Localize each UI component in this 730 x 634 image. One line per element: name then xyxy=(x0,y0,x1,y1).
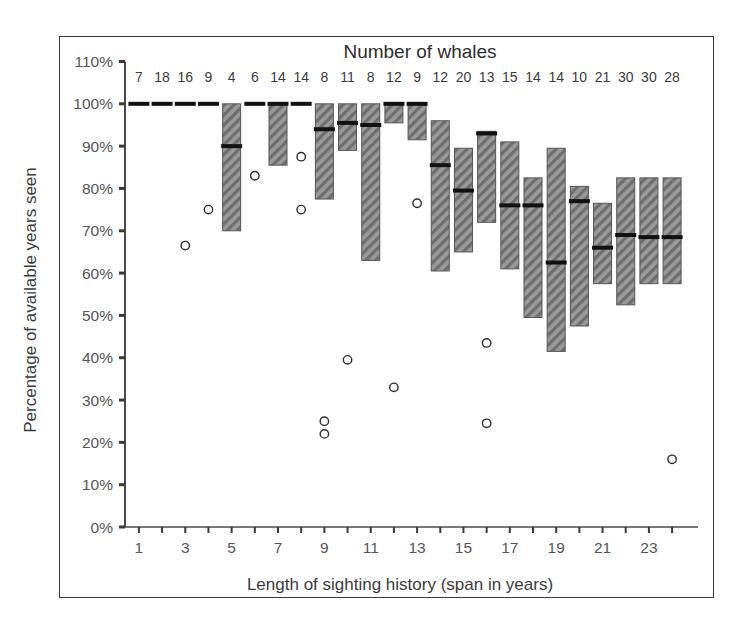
box xyxy=(524,178,542,318)
outliers-group xyxy=(181,153,676,464)
whale-count-label: 21 xyxy=(595,69,611,85)
whale-count-label: 10 xyxy=(572,69,588,85)
box xyxy=(362,104,380,261)
outlier-point xyxy=(204,205,212,213)
outlier-point xyxy=(668,455,676,463)
whale-count-label: 15 xyxy=(502,69,518,85)
y-tick-label: 0% xyxy=(91,519,114,536)
box xyxy=(385,104,403,123)
whale-count-label: 9 xyxy=(413,69,421,85)
whale-count-label: 20 xyxy=(456,69,472,85)
box xyxy=(617,178,635,305)
whale-count-label: 18 xyxy=(154,69,170,85)
y-tick-label: 70% xyxy=(82,222,113,239)
whale-count-label: 28 xyxy=(664,69,680,85)
box xyxy=(454,148,472,252)
x-tick-label: 17 xyxy=(501,539,518,556)
box xyxy=(663,178,681,284)
y-tick-label: 110% xyxy=(75,53,114,70)
box xyxy=(431,121,449,271)
outlier-point xyxy=(320,430,328,438)
outlier-point xyxy=(390,383,398,391)
y-tick-label: 10% xyxy=(82,476,113,493)
boxes-group xyxy=(128,104,682,352)
chart-figure: 7181694614148118129122013151414102130302… xyxy=(0,0,730,634)
outlier-point xyxy=(297,153,305,161)
whale-count-label: 8 xyxy=(320,69,328,85)
whale-count-label: 14 xyxy=(548,69,564,85)
whale-count-label: 16 xyxy=(177,69,193,85)
x-tick-label: 19 xyxy=(548,539,565,556)
box xyxy=(223,104,241,231)
y-tick-label: 60% xyxy=(82,265,113,282)
whale-count-label: 14 xyxy=(293,69,309,85)
whale-count-label: 9 xyxy=(205,69,213,85)
box xyxy=(269,104,287,165)
x-tick-label: 21 xyxy=(594,539,611,556)
x-tick-label: 15 xyxy=(455,539,472,556)
y-tick-label: 80% xyxy=(82,180,113,197)
whale-count-label: 30 xyxy=(641,69,657,85)
whale-count-label: 11 xyxy=(340,69,355,85)
boxplot-svg: 7181694614148118129122013151414102130302… xyxy=(0,0,730,634)
count-labels-group: 7181694614148118129122013151414102130302… xyxy=(135,69,680,85)
whale-count-label: 6 xyxy=(251,69,259,85)
outlier-point xyxy=(343,356,351,364)
x-axis-label: Length of sighting history (span in year… xyxy=(247,575,553,594)
whale-count-label: 12 xyxy=(386,69,402,85)
y-tick-label: 20% xyxy=(82,434,113,451)
whale-count-label: 12 xyxy=(432,69,448,85)
box xyxy=(478,131,496,222)
x-tick-label: 3 xyxy=(181,539,190,556)
whale-count-label: 7 xyxy=(135,69,143,85)
box xyxy=(594,203,612,283)
y-axis-label: Percentage of available years seen xyxy=(21,167,40,433)
x-tick-label: 1 xyxy=(135,539,144,556)
y-tick-label: 100% xyxy=(73,95,113,112)
whale-count-label: 4 xyxy=(228,69,236,85)
outlier-point xyxy=(251,172,259,180)
y-tick-label: 90% xyxy=(82,138,113,155)
y-tick-label: 40% xyxy=(82,349,113,366)
whale-count-label: 13 xyxy=(479,69,495,85)
x-tick-label: 5 xyxy=(227,539,236,556)
box xyxy=(547,148,565,351)
whale-count-label: 30 xyxy=(618,69,634,85)
x-tick-label: 7 xyxy=(274,539,283,556)
outlier-point xyxy=(181,241,189,249)
outlier-point xyxy=(482,339,490,347)
outlier-point xyxy=(482,419,490,427)
x-tick-label: 23 xyxy=(640,539,657,556)
chart-title: Number of whales xyxy=(343,41,496,62)
outlier-point xyxy=(320,417,328,425)
outlier-point xyxy=(413,199,421,207)
x-tick-label: 9 xyxy=(320,539,329,556)
x-tick-label: 13 xyxy=(408,539,425,556)
y-tick-label: 30% xyxy=(82,392,113,409)
whale-count-label: 14 xyxy=(270,69,286,85)
x-tick-label: 11 xyxy=(363,539,379,556)
outlier-point xyxy=(297,205,305,213)
y-tick-label: 50% xyxy=(82,307,113,324)
box xyxy=(570,186,588,326)
whale-count-label: 14 xyxy=(525,69,541,85)
box xyxy=(408,104,426,140)
box xyxy=(640,178,658,284)
whale-count-label: 8 xyxy=(367,69,375,85)
box xyxy=(339,104,357,151)
box xyxy=(315,104,333,199)
